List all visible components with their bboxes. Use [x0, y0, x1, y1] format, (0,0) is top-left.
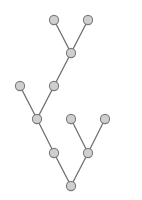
tree-edge-n2-n4 — [71, 119, 88, 153]
tree-node-n8 — [66, 48, 75, 57]
tree-edges — [20, 20, 105, 186]
tree-node-n4 — [66, 114, 75, 123]
tree-edge-n0-n2 — [71, 153, 88, 186]
tree-nodes — [15, 15, 109, 190]
tree-edge-n7-n8 — [54, 53, 71, 86]
tree-node-n5 — [100, 114, 109, 123]
tree-edge-n8-n10 — [71, 20, 88, 53]
tree-node-n7 — [49, 81, 58, 90]
tree-edge-n3-n7 — [37, 86, 54, 119]
tree-edge-n3-n6 — [20, 86, 37, 119]
tree-edge-n8-n9 — [54, 20, 71, 53]
tree-edge-n0-n1 — [54, 153, 71, 186]
tree-node-n10 — [83, 15, 92, 24]
tree-node-n1 — [49, 148, 58, 157]
tree-edge-n2-n5 — [88, 119, 105, 153]
tree-edge-n1-n3 — [37, 119, 54, 153]
tree-node-n3 — [32, 114, 41, 123]
tree-node-n2 — [83, 148, 92, 157]
tree-node-n6 — [15, 81, 24, 90]
tree-node-n0 — [66, 181, 75, 190]
tree-node-n9 — [49, 15, 58, 24]
tree-diagram — [0, 0, 142, 200]
